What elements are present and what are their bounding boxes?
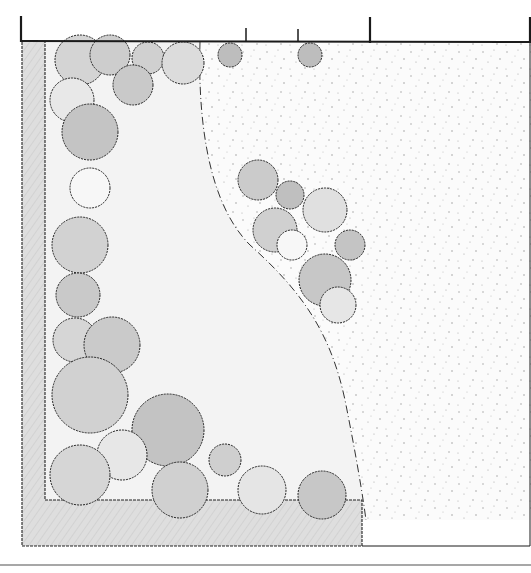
- garden-plan-drawing: [0, 0, 531, 573]
